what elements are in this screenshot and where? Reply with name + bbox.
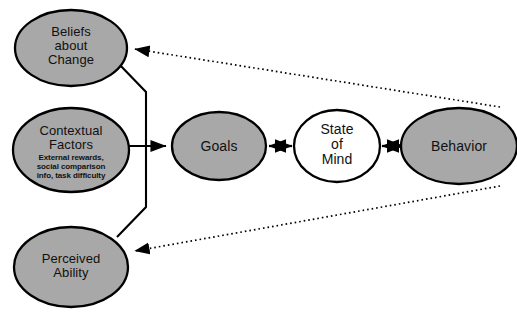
- diagram-graphics: [0, 0, 517, 315]
- node-perceived-ability[interactable]: [14, 227, 128, 307]
- node-contextual-factors[interactable]: [13, 108, 129, 192]
- node-state-of-mind[interactable]: [294, 110, 380, 182]
- diagram-canvas: Beliefs about Change Contextual Factors …: [0, 0, 517, 315]
- edge-behavior-to-perceived-ability-feedback: [135, 186, 500, 251]
- edge-behavior-to-beliefs-feedback: [135, 49, 500, 107]
- node-goals[interactable]: [172, 112, 266, 180]
- node-beliefs-about-change[interactable]: [15, 10, 127, 86]
- node-behavior[interactable]: [401, 108, 517, 184]
